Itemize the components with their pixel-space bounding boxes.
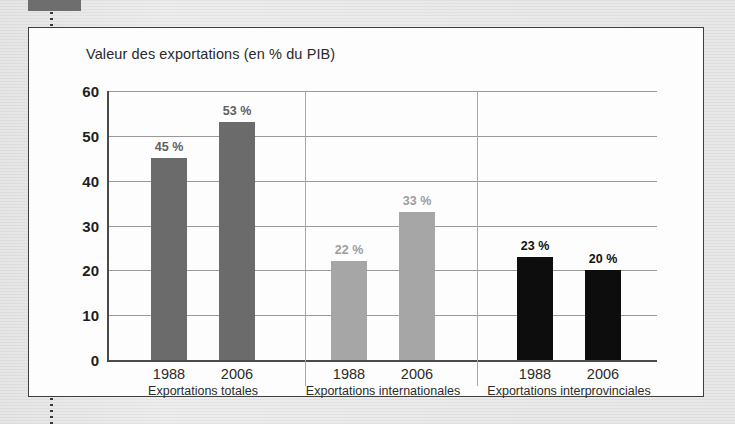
bar-value-label: 53 % bbox=[223, 104, 252, 118]
x-axis-line bbox=[107, 360, 657, 362]
y-tick-label-10: 10 bbox=[53, 307, 99, 324]
bar-value-label: 22 % bbox=[335, 243, 364, 257]
chart-panel: Valeur des exportations (en % du PIB) 01… bbox=[28, 27, 704, 397]
x-tick-label-year: 1988 bbox=[153, 366, 185, 382]
y-tick-label-30: 30 bbox=[53, 217, 99, 234]
y-tick-label-50: 50 bbox=[53, 127, 99, 144]
bar bbox=[517, 257, 553, 360]
dotted-rule-bottom bbox=[50, 398, 53, 424]
x-tick-label-year: 2006 bbox=[401, 366, 433, 382]
bar-value-label: 33 % bbox=[403, 194, 432, 208]
bar bbox=[151, 158, 187, 360]
x-tick-label-year: 1988 bbox=[519, 366, 551, 382]
y-tick-label-40: 40 bbox=[53, 172, 99, 189]
gridline-50 bbox=[107, 136, 657, 137]
gridline-60 bbox=[107, 91, 657, 92]
group-label: Exportations totales bbox=[148, 384, 258, 398]
bar bbox=[585, 270, 621, 360]
group-label: Exportations internationales bbox=[306, 384, 460, 398]
group-separator-2 bbox=[477, 91, 478, 386]
bar-value-label: 45 % bbox=[155, 140, 184, 154]
gridline-40 bbox=[107, 181, 657, 182]
bar bbox=[219, 122, 255, 360]
gridline-20 bbox=[107, 270, 657, 271]
y-axis-line bbox=[107, 91, 109, 361]
x-tick-label-year: 2006 bbox=[221, 366, 253, 382]
group-label: Exportations interprovinciales bbox=[487, 384, 650, 398]
plot-area: 0102030405060 45 %53 %22 %33 %23 %20 % 1… bbox=[29, 28, 705, 398]
y-tick-label-20: 20 bbox=[53, 262, 99, 279]
x-tick-label-year: 1988 bbox=[333, 366, 365, 382]
bar bbox=[399, 212, 435, 360]
group-separator-1 bbox=[305, 91, 306, 386]
y-tick-label-60: 60 bbox=[53, 83, 99, 100]
bar bbox=[331, 261, 367, 360]
gridline-10 bbox=[107, 315, 657, 316]
page-tab-mark bbox=[28, 0, 81, 11]
bar-value-label: 20 % bbox=[589, 252, 618, 266]
dotted-rule-top bbox=[50, 12, 53, 28]
x-tick-label-year: 2006 bbox=[587, 366, 619, 382]
y-tick-label-0: 0 bbox=[53, 352, 99, 369]
bar-value-label: 23 % bbox=[521, 239, 550, 253]
gridline-30 bbox=[107, 226, 657, 227]
